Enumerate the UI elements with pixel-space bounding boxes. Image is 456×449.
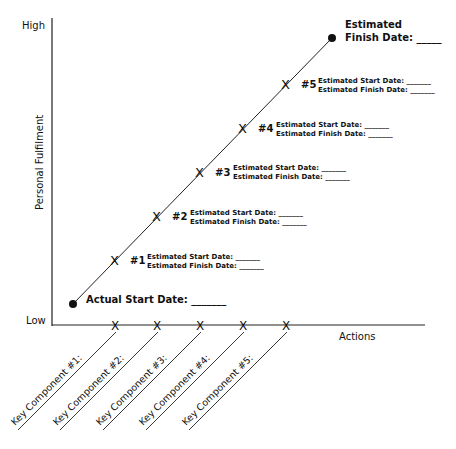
key-component-label: Key Component #2:	[51, 352, 126, 427]
key-component-label: Key Component #3:	[94, 352, 169, 427]
x-mark-icon: X	[110, 253, 119, 268]
x-mark-icon: X	[153, 319, 161, 333]
milestone-start: Estimated Start Date: _______	[190, 209, 303, 217]
milestone-start: Estimated Start Date: _______	[233, 164, 346, 172]
x-mark-icon: X	[152, 209, 161, 224]
milestone-number: #4	[258, 123, 273, 134]
x-mark-icon: X	[196, 319, 204, 333]
y-axis-title: Personal Fulfilment	[34, 115, 45, 210]
milestone-4: X #4 Estimated Start Date: _______ Estim…	[238, 121, 393, 138]
milestone-number: #2	[172, 211, 187, 222]
y-axis-low-label: Low	[26, 315, 46, 326]
milestone-start: Estimated Start Date: _______	[318, 77, 431, 85]
milestone-5: X #5 Estimated Start Date: _______ Estim…	[281, 77, 435, 94]
key-component-label: Key Component #1:	[9, 352, 84, 427]
x-mark-icon: X	[281, 77, 290, 92]
milestone-3: X #3 Estimated Start Date: _______ Estim…	[195, 164, 350, 181]
key-component-label: Key Component #4:	[137, 352, 212, 427]
milestone-finish: Estimated Finish Date: _______	[233, 173, 350, 181]
milestone-finish: Estimated Finish Date: _______	[190, 218, 307, 226]
x-mark-icon: X	[238, 121, 247, 136]
x-mark-icon: X	[282, 319, 290, 333]
milestone-2: X #2 Estimated Start Date: _______ Estim…	[152, 209, 307, 226]
milestone-start: Estimated Start Date: _______	[276, 121, 389, 129]
milestone-finish: Estimated Finish Date: _______	[147, 262, 264, 270]
start-dot	[69, 300, 77, 308]
milestone-number: #3	[215, 167, 230, 178]
y-axis-high-label: High	[22, 20, 45, 31]
actual-start-date-label: Actual Start Date: _______	[86, 294, 226, 306]
estimated-finish-label-2: Finish Date: _____	[345, 32, 441, 44]
milestone-number: #5	[301, 79, 316, 90]
key-component-label: Key Component #5:	[180, 352, 255, 427]
estimated-finish-label-1: Estimated	[345, 19, 402, 30]
finish-dot	[328, 34, 336, 42]
milestone-finish: Estimated Finish Date: _______	[318, 86, 435, 94]
milestone-finish: Estimated Finish Date: _______	[276, 130, 393, 138]
x-mark-icon: X	[111, 319, 119, 333]
milestone-start: Estimated Start Date: _______	[147, 253, 260, 261]
milestone-1: X #1 Estimated Start Date: _______ Estim…	[110, 253, 264, 270]
x-mark-icon: X	[195, 165, 204, 180]
key-component-underline	[189, 332, 287, 430]
x-axis-title: Actions	[339, 331, 376, 342]
x-mark-icon: X	[239, 319, 247, 333]
progress-diagram: High Low Personal Fulfilment Actions Act…	[0, 0, 456, 449]
milestone-number: #1	[130, 255, 145, 266]
